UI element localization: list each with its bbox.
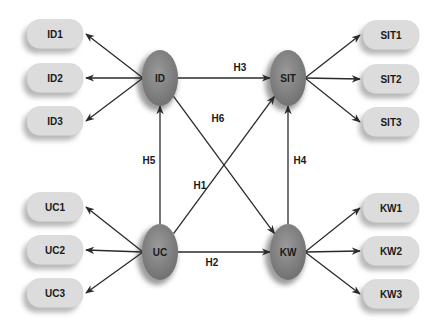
construct-kw: KW: [270, 224, 306, 280]
indicator-kw1: KW1: [363, 194, 419, 223]
loading-arrow: [86, 78, 143, 121]
indicator-id2: ID2: [27, 64, 83, 93]
indicator-id1: ID1: [27, 20, 83, 49]
indicator-label: UC2: [45, 245, 65, 256]
indicator-kw3: KW3: [363, 280, 419, 309]
indicator-uc3: UC3: [27, 279, 83, 308]
loading-arrow: [305, 251, 360, 252]
hypothesis-label: H1: [194, 180, 207, 191]
indicator-label: UC3: [45, 288, 65, 299]
indicator-label: ID3: [47, 116, 63, 127]
diagram-canvas: ID1ID2ID3UC1UC2UC3SIT1SIT2SIT3KW1KW2KW3I…: [0, 0, 441, 333]
hypothesis-label: H4: [294, 155, 307, 166]
indicator-label: SIT3: [380, 117, 402, 128]
hypothesis-label: H3: [234, 62, 247, 73]
indicator-id3: ID3: [27, 107, 83, 136]
structural-model-diagram: ID1ID2ID3UC1UC2UC3SIT1SIT2SIT3KW1KW2KW3I…: [0, 0, 441, 333]
loading-arrow: [86, 250, 143, 252]
construct-uc: UC: [142, 224, 178, 280]
loading-arrow: [305, 78, 360, 122]
indicator-uc1: UC1: [27, 193, 83, 222]
loading-arrow: [305, 78, 360, 79]
construct-sit: SIT: [270, 50, 306, 106]
indicator-label: KW3: [380, 289, 403, 300]
indicator-sit2: SIT2: [363, 65, 419, 94]
indicator-label: UC1: [45, 202, 65, 213]
indicator-uc2: UC2: [27, 236, 83, 265]
loading-arrow: [305, 252, 360, 294]
indicator-label: SIT1: [380, 30, 402, 41]
hypothesis-label: H2: [206, 257, 219, 268]
shadow-layer: [23, 25, 415, 314]
construct-label: UC: [153, 247, 167, 258]
construct-id: ID: [142, 50, 178, 106]
indicator-label: KW2: [380, 246, 403, 257]
indicator-label: SIT2: [380, 74, 402, 85]
construct-label: SIT: [280, 73, 296, 84]
hypothesis-label: H5: [143, 155, 156, 166]
loading-arrow: [86, 34, 143, 78]
hypothesis-label: H6: [212, 113, 225, 124]
construct-label: ID: [155, 73, 165, 84]
construct-label: KW: [280, 247, 297, 258]
indicator-kw2: KW2: [363, 237, 419, 266]
indicator-sit3: SIT3: [363, 108, 419, 137]
indicator-sit1: SIT1: [363, 21, 419, 50]
loading-arrow: [86, 207, 143, 252]
indicator-label: ID2: [47, 73, 63, 84]
loading-arrow: [305, 35, 360, 78]
indicator-label: KW1: [380, 203, 403, 214]
loading-arrow: [305, 208, 360, 252]
edge-layer: [86, 34, 360, 294]
loading-arrow: [86, 252, 143, 293]
indicator-label: ID1: [47, 29, 63, 40]
